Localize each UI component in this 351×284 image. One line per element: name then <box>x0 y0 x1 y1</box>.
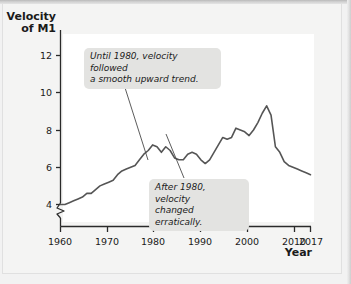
x-tick-label-2000: 2000 <box>230 236 264 247</box>
y-tick-label-6: 6 <box>30 162 52 173</box>
x-tick-label-1960: 1960 <box>43 236 77 247</box>
x-tick-label-1980: 1980 <box>136 236 170 247</box>
y-tick-label-12: 12 <box>30 50 52 61</box>
annotation-callout-pre-1980: Until 1980, velocity followed a smooth u… <box>84 48 221 89</box>
y-axis-title-line2: of M1 <box>6 23 56 35</box>
y-axis-title: Velocity of M1 <box>6 11 56 35</box>
annotation-callout-post-1980: After 1980, velocity changed erratically… <box>149 179 249 231</box>
x-tick-label-2017: 2017 <box>294 236 328 247</box>
callout-2-leader <box>166 134 184 178</box>
x-tick-label-1970: 1970 <box>90 236 124 247</box>
y-tick-label-4: 4 <box>30 199 52 210</box>
y-tick-label-10: 10 <box>30 87 52 98</box>
x-axis-title: Year <box>268 247 312 259</box>
y-tick-marks <box>56 56 61 205</box>
chart-figure: Velocity of M1 Year 12 10 8 6 4 1960 197… <box>0 0 351 284</box>
x-tick-label-1990: 1990 <box>183 236 217 247</box>
y-tick-label-8: 8 <box>30 125 52 136</box>
